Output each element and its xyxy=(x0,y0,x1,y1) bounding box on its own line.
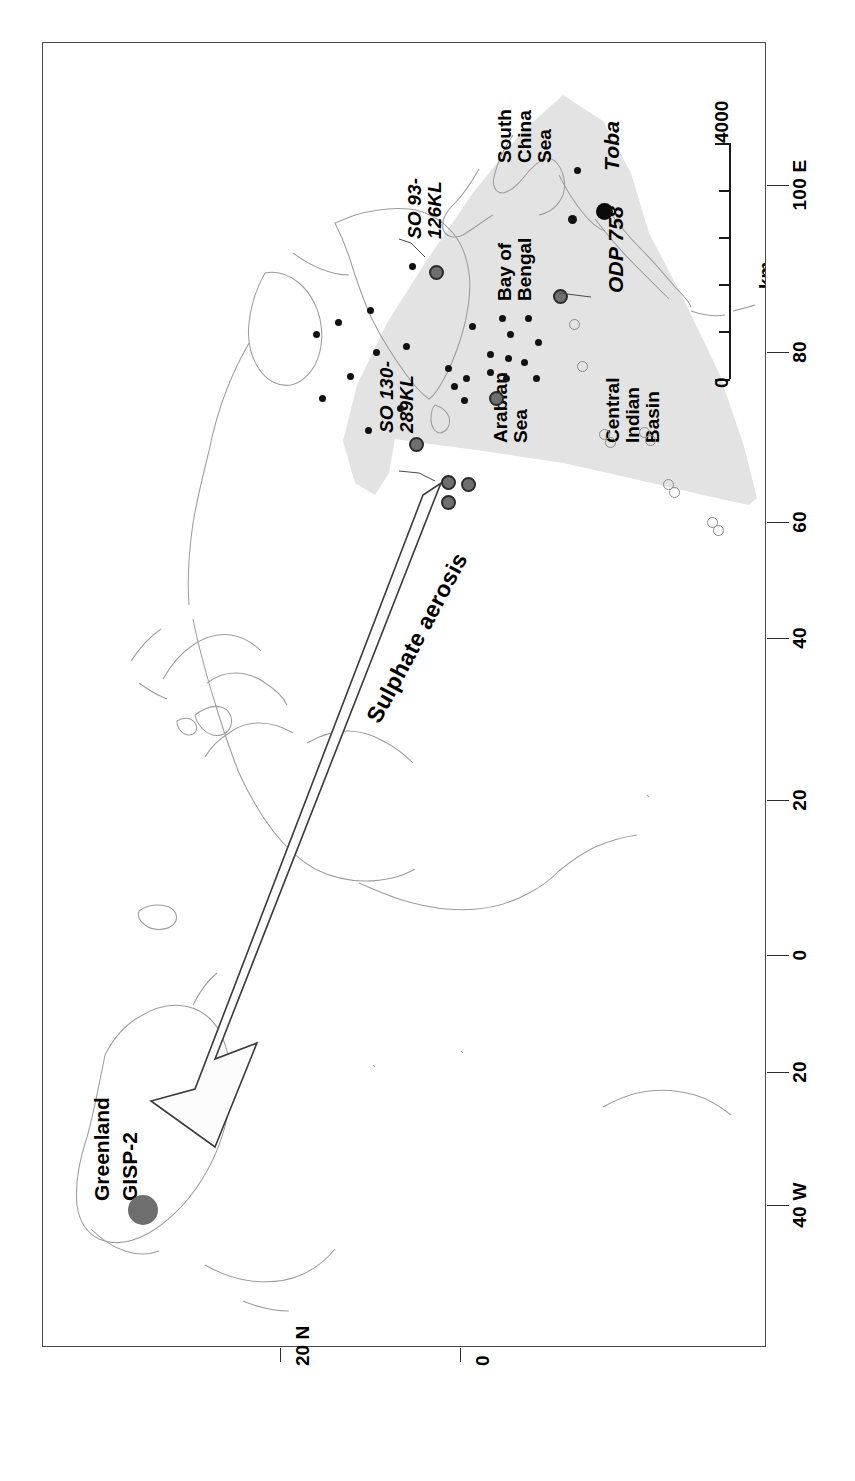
lon-tick-60 xyxy=(767,522,789,523)
label-leader-lines xyxy=(43,43,766,1347)
lon-label-20w: 20 xyxy=(789,1061,811,1083)
lat-tick-20n xyxy=(280,1348,281,1362)
lon-tick-100e xyxy=(767,185,789,186)
lat-tick-0 xyxy=(460,1348,461,1362)
lon-label-80: 80 xyxy=(789,341,811,363)
lat-label-0: 0 xyxy=(472,1355,494,1366)
lon-label-20e: 20 xyxy=(789,789,811,811)
lon-label-100e: 100 E xyxy=(789,159,811,210)
lon-tick-20w xyxy=(767,1072,789,1073)
scale-unit-label: km xyxy=(755,262,766,289)
scale-max-label: 4000 xyxy=(711,101,733,143)
lon-tick-40 xyxy=(767,638,789,639)
figure-canvas: South China Sea Toba ODP 758 SO 93- 126K… xyxy=(0,0,855,1481)
lon-tick-40w xyxy=(767,1205,789,1206)
lon-label-40: 40 xyxy=(789,627,811,649)
lat-label-20n: 20 N xyxy=(292,1326,314,1366)
scale-min-label: 0 xyxy=(711,377,733,388)
lon-tick-20e xyxy=(767,800,789,801)
lon-tick-80 xyxy=(767,352,789,353)
lon-label-60: 60 xyxy=(789,511,811,533)
map-frame: South China Sea Toba ODP 758 SO 93- 126K… xyxy=(42,42,766,1347)
lon-label-0: 0 xyxy=(789,950,811,961)
lon-label-40w: 40 W xyxy=(789,1182,811,1228)
lon-tick-0 xyxy=(767,955,789,956)
